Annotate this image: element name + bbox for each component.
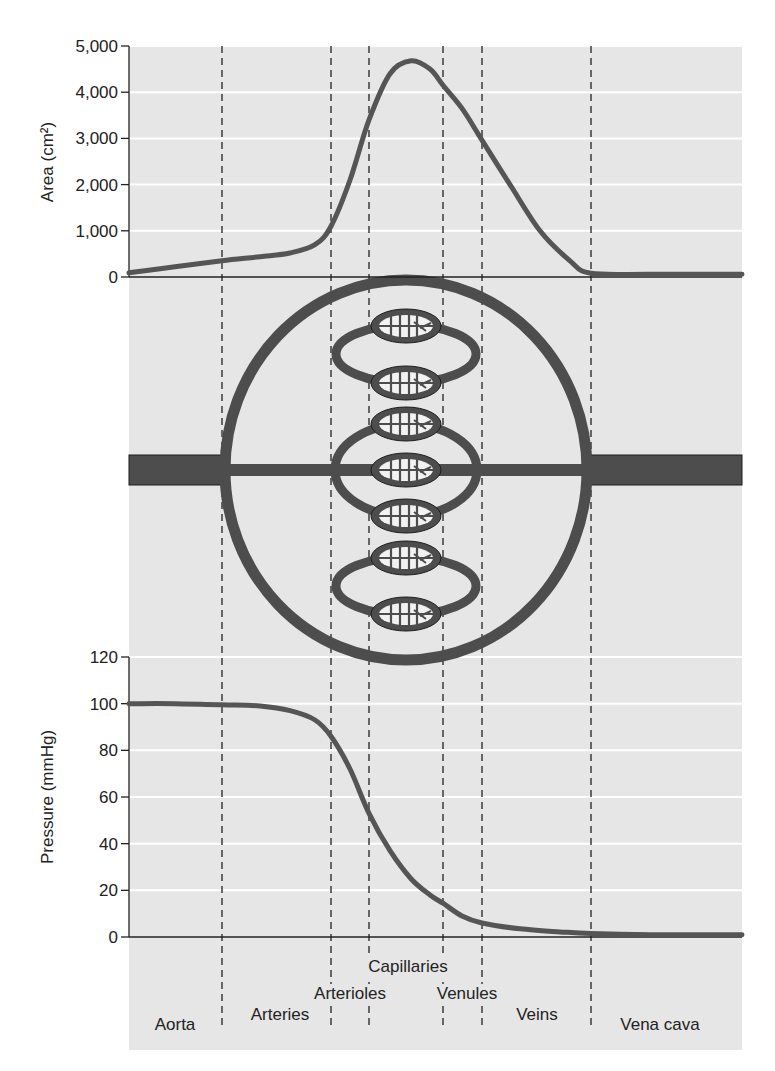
region-label-veins: Veins <box>516 1005 558 1024</box>
tick-label: 0 <box>109 928 118 947</box>
capillary-bed <box>371 453 441 487</box>
tick-label: 5,000 <box>75 37 118 56</box>
figure-canvas: 01,0002,0003,0004,0005,000 0204060801001… <box>0 0 775 1071</box>
capillary-bed <box>371 309 441 343</box>
capillary-bed <box>371 499 441 533</box>
tick-label: 20 <box>99 881 118 900</box>
capillary-bed <box>371 366 441 400</box>
tick-label: 1,000 <box>75 222 118 241</box>
region-label-arterioles: Arterioles <box>314 984 386 1003</box>
tick-label: 80 <box>99 741 118 760</box>
region-label-venules: Venules <box>437 984 498 1003</box>
tick-label: 2,000 <box>75 176 118 195</box>
region-label-vena-cava: Vena cava <box>620 1015 700 1034</box>
tick-label: 40 <box>99 835 118 854</box>
region-label-capillaries: Capillaries <box>368 957 447 976</box>
tick-label: 3,000 <box>75 129 118 148</box>
capillary-bed <box>371 541 441 575</box>
aorta-vessel <box>129 455 226 485</box>
area-axis-title: Area (cm²) <box>38 122 57 202</box>
vena-cava-vessel <box>587 455 742 485</box>
tick-label: 100 <box>90 695 118 714</box>
tick-label: 0 <box>109 268 118 287</box>
pressure-axis-title: Pressure (mmHg) <box>38 730 57 864</box>
tick-label: 60 <box>99 788 118 807</box>
capillary-bed <box>371 407 441 441</box>
tick-label: 120 <box>90 648 118 667</box>
region-label-arteries: Arteries <box>251 1005 310 1024</box>
capillary-bed <box>371 597 441 631</box>
tick-label: 4,000 <box>75 83 118 102</box>
region-label-aorta: Aorta <box>155 1015 196 1034</box>
circulation-figure: 01,0002,0003,0004,0005,000 0204060801001… <box>0 0 775 1071</box>
